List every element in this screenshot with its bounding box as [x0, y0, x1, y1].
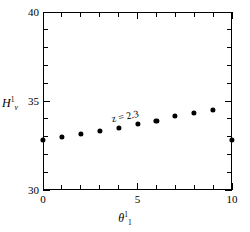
y-axis-tick: [43, 190, 50, 191]
x-axis-tick-top: [61, 12, 62, 17]
y-axis-tick: [43, 65, 48, 66]
x-axis-tick: [213, 185, 214, 190]
y-axis-tick: [43, 83, 48, 84]
y-axis-tick-right: [225, 101, 232, 102]
y-axis-title: H1v: [2, 95, 18, 112]
x-axis-tick-top: [43, 12, 44, 19]
x-axis-tick: [61, 185, 62, 190]
x-axis-tick: [118, 185, 119, 190]
x-axis-tick-top: [156, 12, 157, 17]
x-axis-tick: [137, 183, 138, 190]
y-axis-tick-label: 30: [21, 185, 39, 196]
y-axis-tick-right: [227, 29, 232, 30]
x-axis-tick-top: [99, 12, 100, 17]
y-axis-title-subscript: v: [14, 103, 17, 112]
x-axis-tick: [80, 185, 81, 190]
y-axis-tick: [43, 29, 48, 30]
x-axis-tick: [156, 185, 157, 190]
x-axis-tick: [175, 185, 176, 190]
x-axis-title: θ11: [118, 210, 131, 227]
y-axis-tick-right: [227, 118, 232, 119]
x-axis-title-subscript: 1: [128, 218, 132, 227]
x-axis-tick-top: [118, 12, 119, 17]
x-axis-tick-top: [232, 12, 233, 19]
x-axis-tick-label: 5: [135, 194, 141, 205]
y-axis-tick: [43, 47, 48, 48]
y-axis-tick: [43, 12, 50, 13]
plot-frame: [43, 12, 232, 190]
x-axis-tick-top: [137, 12, 138, 19]
y-axis-tick: [43, 154, 48, 155]
y-axis-tick-right: [227, 65, 232, 66]
data-point: [229, 138, 234, 143]
y-axis-tick: [43, 101, 50, 102]
figure: H1v θ11 0510303540z = 2.3: [0, 0, 250, 232]
y-axis-tick-right: [225, 12, 232, 13]
y-axis-tick: [43, 172, 48, 173]
y-axis-tick-right: [227, 154, 232, 155]
x-axis-tick-top: [213, 12, 214, 17]
y-axis-tick-right: [227, 47, 232, 48]
x-axis-tick-label: 0: [40, 194, 46, 205]
y-axis-tick-right: [227, 172, 232, 173]
x-axis-tick: [99, 185, 100, 190]
x-axis-tick-label: 10: [227, 194, 238, 205]
y-axis-tick-label: 40: [21, 7, 39, 18]
x-axis-tick-top: [175, 12, 176, 17]
y-axis-tick-label: 35: [21, 96, 39, 107]
x-axis-tick-top: [80, 12, 81, 17]
x-axis-tick-top: [194, 12, 195, 17]
x-axis-tick: [194, 185, 195, 190]
y-axis-tick-right: [227, 83, 232, 84]
y-axis-tick-right: [225, 190, 232, 191]
y-axis-tick: [43, 118, 48, 119]
y-axis-title-symbol: H: [2, 96, 11, 110]
